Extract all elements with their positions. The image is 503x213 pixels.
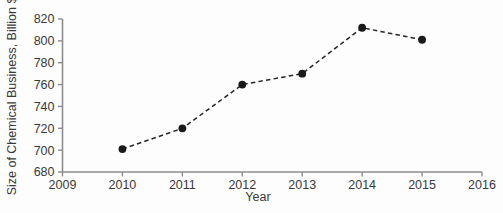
x-tick-label-2016: 2016 [468, 178, 496, 192]
x-tick-label-2015: 2015 [408, 178, 436, 192]
x-tick-label-2014: 2014 [348, 178, 376, 192]
y-tick-label-820: 820 [34, 12, 55, 26]
data-point-2010 [119, 145, 127, 153]
chart-canvas: 820800780760740720700680 200920102011201… [0, 0, 503, 213]
x-axis-ticks: 20092010201120122013201420152016 [49, 172, 496, 192]
x-tick-label-2013: 2013 [288, 178, 316, 192]
y-tick-label-700: 700 [34, 144, 55, 158]
y-tick-label-780: 780 [34, 56, 55, 70]
data-point-2012 [238, 81, 246, 89]
data-point-2015 [418, 36, 426, 44]
y-tick-label-800: 800 [34, 34, 55, 48]
data-point-2011 [178, 124, 186, 132]
y-tick-label-720: 720 [34, 122, 55, 136]
data-point-2013 [298, 70, 306, 78]
y-tick-label-760: 760 [34, 78, 55, 92]
x-axis-title: Year [245, 190, 270, 204]
data-point-2014 [358, 24, 366, 32]
x-tick-label-2011: 2011 [169, 178, 196, 192]
x-tick-label-2009: 2009 [49, 178, 77, 192]
y-axis-ticks: 820800780760740720700680 [34, 12, 63, 179]
data-point-markers [119, 24, 426, 153]
line-chart: 820800780760740720700680 200920102011201… [0, 0, 503, 213]
x-tick-label-2010: 2010 [109, 178, 137, 192]
y-axis-title: Size of Chemical Business, Billion $ [5, 0, 19, 195]
y-tick-label-740: 740 [34, 100, 55, 114]
data-series-line [122, 28, 422, 149]
